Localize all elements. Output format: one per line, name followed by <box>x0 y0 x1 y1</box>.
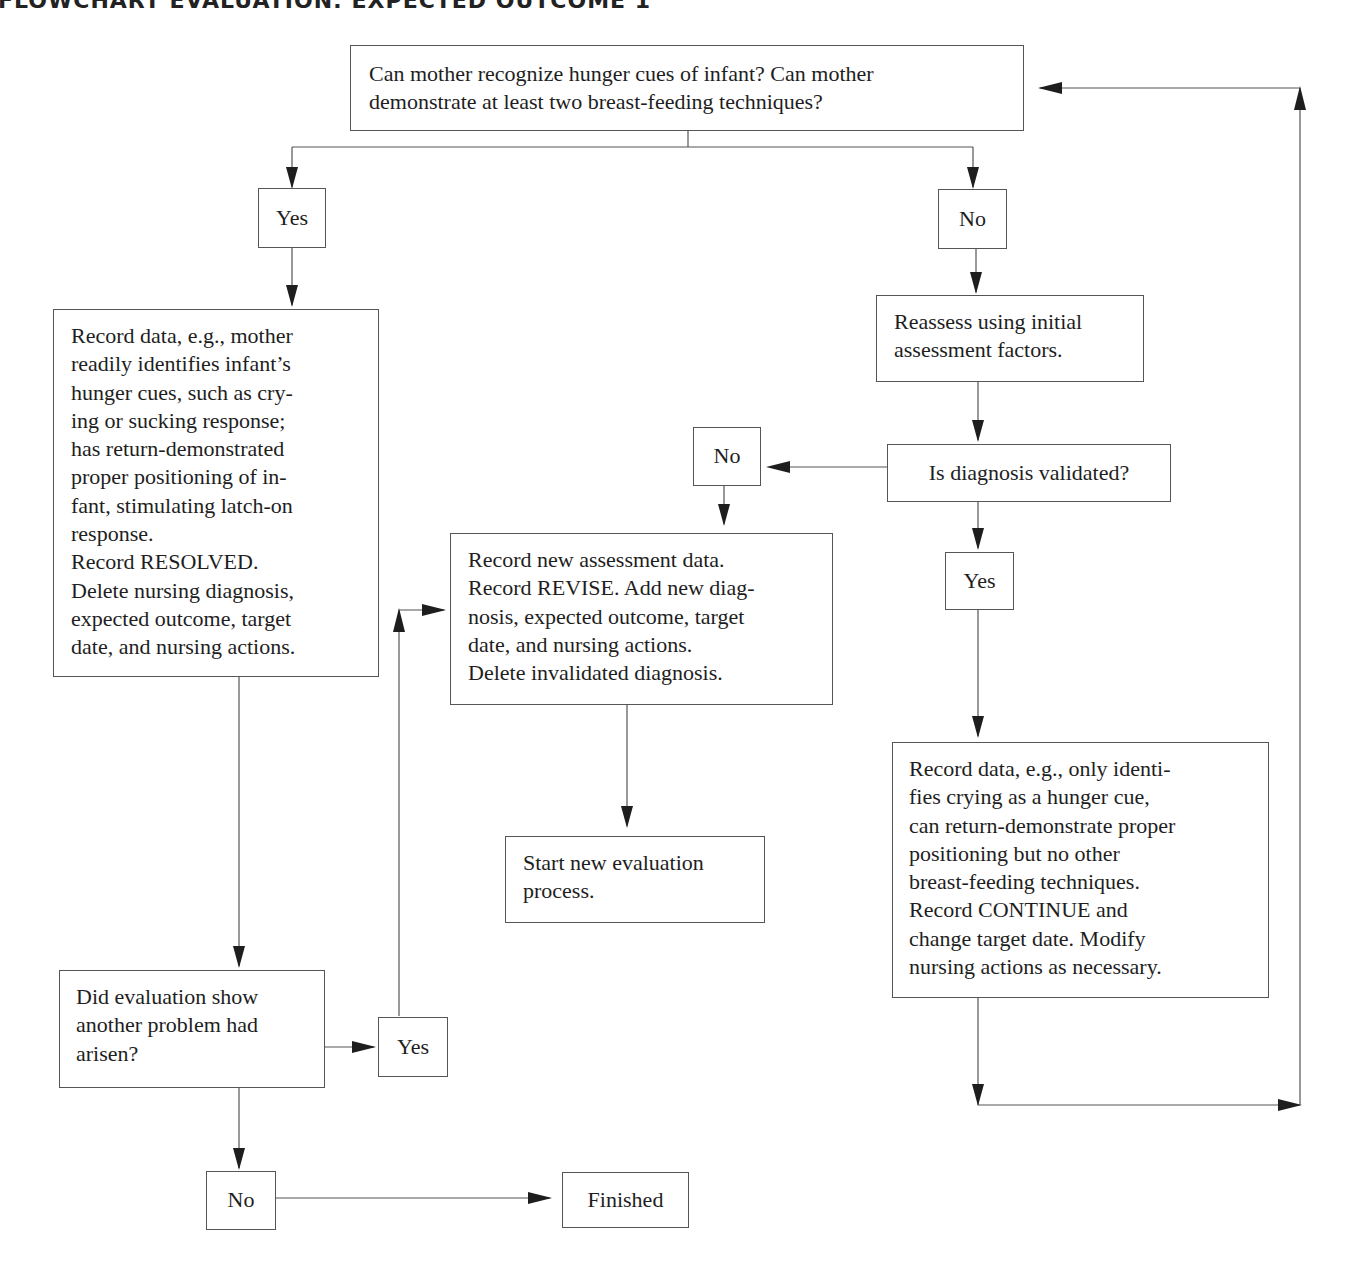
node-text: Finished <box>588 1186 664 1214</box>
node-text: Yes <box>276 204 308 232</box>
node-no-2: No <box>693 427 761 486</box>
node-text: Yes <box>963 567 995 595</box>
node-yes-1: Yes <box>258 188 326 248</box>
node-text: Yes <box>397 1033 429 1061</box>
node-text: Can mother recognize hunger cues of infa… <box>369 60 1023 117</box>
node-text: Record new assessment data. Record REVIS… <box>468 546 832 687</box>
node-text: Start new evaluation process. <box>523 849 764 906</box>
node-text: Did evaluation show another problem had … <box>76 983 324 1068</box>
node-text: No <box>714 442 741 470</box>
node-yes-2: Yes <box>945 552 1014 610</box>
node-resolved-record: Record data, e.g., mother readily identi… <box>53 309 379 677</box>
node-no-1: No <box>938 189 1007 249</box>
node-text: Record data, e.g., mother readily identi… <box>71 322 378 662</box>
node-another-problem: Did evaluation show another problem had … <box>59 970 325 1088</box>
node-finished: Finished <box>562 1172 689 1228</box>
node-start-question: Can mother recognize hunger cues of infa… <box>350 45 1024 131</box>
node-reassess: Reassess using initial assessment factor… <box>876 295 1144 382</box>
node-continue-record: Record data, e.g., only identi- fies cry… <box>892 742 1269 998</box>
node-text: Record data, e.g., only identi- fies cry… <box>909 755 1268 981</box>
node-text: No <box>959 205 986 233</box>
node-diagnosis-validated: Is diagnosis validated? <box>887 444 1171 502</box>
node-text: Is diagnosis validated? <box>929 459 1129 487</box>
node-text: No <box>228 1186 255 1214</box>
node-revise-record: Record new assessment data. Record REVIS… <box>450 533 833 705</box>
node-start-new: Start new evaluation process. <box>505 836 765 923</box>
node-no-3: No <box>206 1171 276 1230</box>
node-yes-3: Yes <box>378 1017 448 1077</box>
node-text: Reassess using initial assessment factor… <box>894 308 1143 365</box>
